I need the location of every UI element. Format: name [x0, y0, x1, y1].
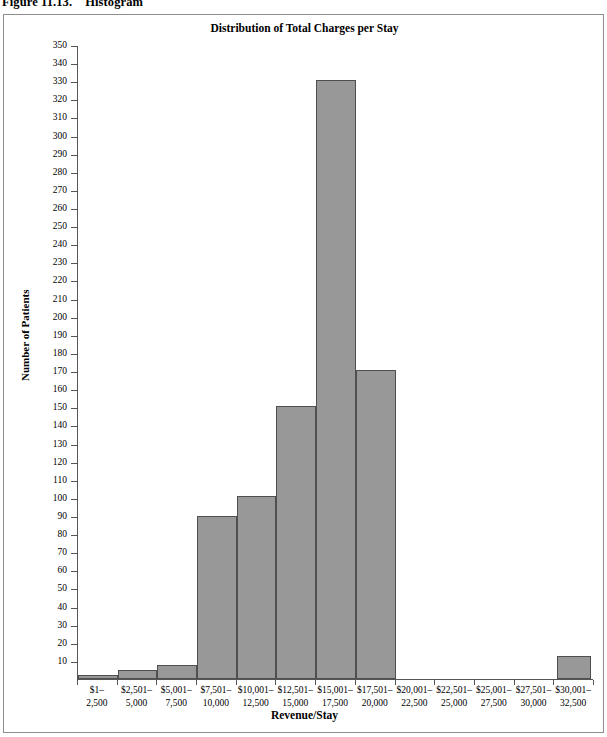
y-axis-tick-label: 170 [53, 365, 67, 378]
y-axis-tick: 350 [33, 46, 77, 47]
histogram-bar [276, 406, 316, 679]
y-axis-tick-label: 70 [58, 546, 68, 559]
y-axis-tick-label: 120 [53, 456, 67, 469]
y-axis-tick-label: 50 [58, 582, 68, 595]
y-axis-tick-label: 130 [53, 438, 67, 451]
y-axis-tick-mark [71, 571, 77, 572]
y-axis-tick: 300 [33, 137, 77, 138]
y-axis-tick-mark [71, 517, 77, 518]
histogram-bar [356, 370, 396, 679]
y-axis-tick: 270 [33, 191, 77, 192]
y-axis-tick-mark [71, 662, 77, 663]
y-axis-tick-mark [71, 118, 77, 119]
y-axis-tick-label: 230 [53, 256, 67, 269]
y-axis-tick: 180 [33, 354, 77, 355]
y-axis-tick-label: 350 [53, 39, 67, 52]
y-axis-tick-label: 110 [53, 474, 67, 487]
y-axis-tick-label: 80 [58, 528, 68, 541]
y-axis-tick-mark [71, 245, 77, 246]
figure-caption-label: Figure 11.13. [2, 0, 72, 9]
y-axis-tick: 60 [33, 571, 77, 572]
y-axis-tick: 190 [33, 336, 77, 337]
y-axis-tick: 120 [33, 463, 77, 464]
histogram-bar [157, 665, 197, 679]
x-axis-tick-label-line: $30,001– [547, 684, 599, 697]
y-axis-tick-label: 40 [58, 601, 68, 614]
y-axis-tick-mark [71, 336, 77, 337]
y-axis-tick: 160 [33, 390, 77, 391]
y-axis-tick-mark [71, 354, 77, 355]
histogram-bar [78, 675, 118, 679]
y-axis-tick-label: 60 [58, 564, 68, 577]
y-axis-tick-mark [71, 82, 77, 83]
y-axis-tick: 90 [33, 517, 77, 518]
y-axis-tick-label: 140 [53, 419, 67, 432]
y-axis-tick: 70 [33, 553, 77, 554]
histogram-bar [197, 516, 237, 679]
y-axis-tick-label: 340 [53, 57, 67, 70]
histogram-bar [316, 80, 356, 679]
histogram-bar [237, 496, 277, 679]
y-axis-tick-mark [71, 535, 77, 536]
x-axis-tick-label: $30,001–32,500 [547, 684, 599, 710]
y-axis-tick-mark [71, 227, 77, 228]
y-axis-tick: 340 [33, 64, 77, 65]
y-axis-tick-label: 200 [53, 311, 67, 324]
y-axis-tick-mark [71, 589, 77, 590]
y-axis-tick-label: 320 [53, 93, 67, 106]
figure-caption: Figure 11.13.Histogram [0, 0, 607, 13]
y-axis-tick: 50 [33, 589, 77, 590]
y-axis-tick: 280 [33, 173, 77, 174]
x-axis-title: Revenue/Stay [4, 709, 605, 721]
y-axis-tick-label: 300 [53, 130, 67, 143]
y-axis-tick-label: 240 [53, 238, 67, 251]
y-axis-tick-label: 180 [53, 347, 67, 360]
y-axis-tick-mark [71, 626, 77, 627]
y-axis-tick-label: 280 [53, 166, 67, 179]
y-axis-tick-mark [71, 64, 77, 65]
y-axis-tick: 80 [33, 535, 77, 536]
y-axis-tick: 330 [33, 82, 77, 83]
y-axis-tick-mark [71, 463, 77, 464]
y-axis-tick-mark [71, 191, 77, 192]
histogram-bar [557, 656, 591, 680]
y-axis-tick-label: 290 [53, 148, 67, 161]
y-axis-tick: 170 [33, 372, 77, 373]
y-axis-tick-label: 190 [53, 329, 67, 342]
y-axis-tick: 140 [33, 426, 77, 427]
y-axis-tick: 40 [33, 608, 77, 609]
y-axis-tick-mark [71, 281, 77, 282]
plot-area: 3503403303203103002902802702602502402302… [77, 46, 593, 680]
y-axis-tick-mark [71, 408, 77, 409]
y-axis-tick: 260 [33, 209, 77, 210]
y-axis-tick-mark [71, 318, 77, 319]
x-axis-line [77, 679, 593, 680]
y-axis-tick-label: 330 [53, 75, 67, 88]
y-axis-tick-mark [71, 300, 77, 301]
x-axis-labels: $1–2,500$2,501–5,000$5,001–7,500$7,501–1… [77, 684, 593, 710]
y-axis-tick: 210 [33, 300, 77, 301]
y-axis-tick-mark [71, 553, 77, 554]
y-axis-tick: 240 [33, 245, 77, 246]
figure-caption-text: Histogram [85, 0, 143, 9]
y-axis-tick-label: 250 [53, 220, 67, 233]
y-axis-tick-mark [71, 426, 77, 427]
y-axis-tick-mark [71, 644, 77, 645]
y-axis-tick-label: 270 [53, 184, 67, 197]
y-axis-tick-label: 10 [58, 655, 68, 668]
y-axis-tick-label: 20 [58, 637, 68, 650]
y-axis-tick-label: 90 [58, 510, 68, 523]
y-axis-tick-mark [71, 499, 77, 500]
y-axis-tick-label: 260 [53, 202, 67, 215]
chart-figure: Distribution of Total Charges per Stay N… [3, 14, 604, 733]
y-axis-tick: 30 [33, 626, 77, 627]
y-axis-tick-mark [71, 209, 77, 210]
y-axis-tick-mark [71, 481, 77, 482]
y-axis-tick-label: 310 [53, 111, 67, 124]
y-axis-tick: 310 [33, 118, 77, 119]
y-axis-tick-label: 30 [58, 619, 68, 632]
y-axis-tick: 110 [33, 481, 77, 482]
y-axis-tick-mark [71, 173, 77, 174]
y-axis-tick: 290 [33, 155, 77, 156]
y-axis-tick: 230 [33, 263, 77, 264]
